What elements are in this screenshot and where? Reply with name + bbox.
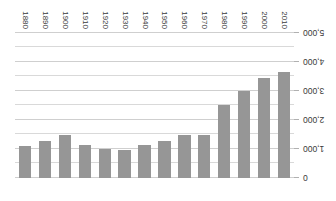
bar bbox=[178, 135, 190, 178]
category-axis-label: 1880 bbox=[21, 11, 29, 29]
category-axis-label: 1940 bbox=[141, 11, 149, 29]
bar bbox=[158, 141, 170, 178]
bar-series bbox=[15, 33, 294, 178]
category-axis-label: 2000 bbox=[260, 11, 268, 29]
bar bbox=[198, 135, 210, 178]
value-axis-tick bbox=[294, 90, 299, 91]
value-axis-label: 1,000 bbox=[303, 145, 324, 154]
category-axis-label: 1980 bbox=[220, 11, 228, 29]
bar bbox=[238, 91, 250, 178]
value-axis-label: 5,000 bbox=[303, 29, 324, 38]
value-axis-label: 3,000 bbox=[303, 87, 324, 96]
category-axis-label: 1890 bbox=[41, 11, 49, 29]
category-axis-label: 1970 bbox=[200, 11, 208, 29]
value-axis-tick bbox=[294, 148, 299, 149]
category-axis-label: 2010 bbox=[280, 11, 288, 29]
category-axis-label: 1930 bbox=[121, 11, 129, 29]
value-axis-tick bbox=[294, 119, 299, 120]
category-axis-label: 1990 bbox=[240, 11, 248, 29]
category-axis-label: 1960 bbox=[180, 11, 188, 29]
value-axis-tick bbox=[294, 32, 299, 33]
chart-screenshot: 01,0002,0003,0004,0005,000 2010200019901… bbox=[0, 0, 336, 201]
value-axis-tick bbox=[294, 61, 299, 62]
value-axis-tick bbox=[294, 177, 299, 178]
plot-area: 01,0002,0003,0004,0005,000 2010200019901… bbox=[15, 33, 294, 178]
value-axis-label: 2,000 bbox=[303, 116, 324, 125]
category-axis-label: 1910 bbox=[81, 11, 89, 29]
category-axis-label: 1950 bbox=[160, 11, 168, 29]
bar bbox=[278, 72, 290, 178]
value-axis-label: 0 bbox=[303, 174, 308, 183]
category-axis-label: 1920 bbox=[101, 11, 109, 29]
chart-figure: 01,0002,0003,0004,0005,000 2010200019901… bbox=[0, 0, 336, 201]
bar bbox=[99, 149, 111, 178]
value-axis-label: 4,000 bbox=[303, 58, 324, 67]
bar bbox=[39, 141, 51, 178]
bar bbox=[79, 145, 91, 178]
bar bbox=[118, 150, 130, 178]
bar bbox=[59, 135, 71, 178]
bar bbox=[138, 145, 150, 178]
bar bbox=[19, 146, 31, 178]
bar bbox=[258, 78, 270, 178]
bar bbox=[218, 106, 230, 179]
category-axis-label: 1900 bbox=[61, 11, 69, 29]
